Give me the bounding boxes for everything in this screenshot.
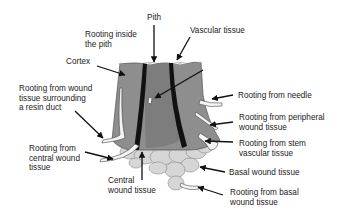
label-rooting-stem-vascular: Rooting from stem vascular tissue bbox=[239, 139, 306, 158]
root-pith bbox=[148, 97, 152, 104]
label-rooting-resin-duct: Rooting from wound tissue surrounding a … bbox=[19, 84, 92, 113]
label-rooting-peripheral: Rooting from peripheral wound tissue bbox=[239, 113, 325, 132]
label-rooting-central: Rooting from central wound tissue bbox=[29, 144, 80, 173]
label-vascular-tissue: Vascular tissue bbox=[190, 26, 245, 36]
label-cortex: Cortex bbox=[66, 57, 90, 67]
label-rooting-basal: Rooting from basal wound tissue bbox=[230, 188, 299, 207]
root-basal bbox=[180, 183, 199, 190]
label-rooting-needle: Rooting from needle bbox=[238, 91, 312, 101]
label-pith: Pith bbox=[147, 13, 161, 23]
label-central-wound-tissue: Central wound tissue bbox=[108, 176, 156, 195]
label-basal-wound-tissue: Basal wound tissue bbox=[229, 168, 300, 178]
label-rooting-inside-pith: Rooting inside the pith bbox=[85, 30, 137, 49]
